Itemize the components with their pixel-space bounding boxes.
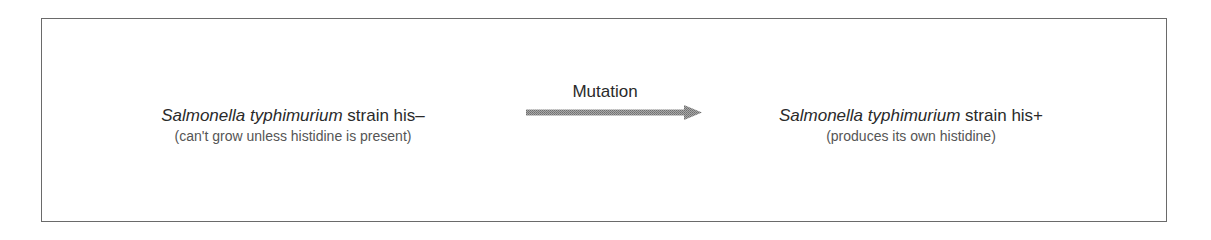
mutation-label: Mutation xyxy=(540,82,670,102)
species-name: Salmonella typhimurium xyxy=(779,106,960,125)
strain-label: strain his+ xyxy=(960,106,1043,125)
his-plus-strain-name: Salmonella typhimurium strain his+ xyxy=(736,106,1086,126)
his-plus-strain: Salmonella typhimurium strain his+ (prod… xyxy=(736,106,1086,145)
species-name: Salmonella typhimurium xyxy=(161,106,342,125)
strain-label: strain his– xyxy=(343,106,425,125)
his-minus-strain: Salmonella typhimurium strain his– (can'… xyxy=(133,106,453,145)
his-minus-strain-name: Salmonella typhimurium strain his– xyxy=(133,106,453,126)
his-minus-description: (can't grow unless histidine is present) xyxy=(133,127,453,145)
right-arrow-icon xyxy=(526,104,702,121)
his-plus-description: (produces its own histidine) xyxy=(736,127,1086,145)
